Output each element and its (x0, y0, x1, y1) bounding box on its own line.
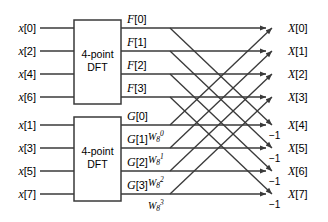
input-label-x3: x[3] (18, 142, 36, 154)
bottom-dft-label: 4-pointDFT (74, 145, 121, 171)
intermediate-label-G1: G[1] (127, 133, 148, 145)
negation-label-row-5: −1 (269, 154, 280, 164)
input-label-x5: x[5] (18, 165, 36, 177)
intermediate-label-F2: F[2] (127, 59, 147, 71)
output-label-X2: X[2] (288, 68, 308, 80)
twiddle-factor-w8-1: W81 (148, 153, 164, 167)
output-label-X5: X[5] (288, 142, 308, 154)
intermediate-label-G2: G[2] (127, 156, 148, 168)
negation-label-row-6: −1 (269, 177, 280, 187)
twiddle-factor-w8-3: W83 (148, 199, 164, 213)
negation-label-row-7: −1 (269, 200, 280, 210)
input-label-x2: x[2] (18, 45, 36, 57)
output-label-X3: X[3] (288, 91, 308, 103)
output-label-X6: X[6] (288, 165, 308, 177)
flow-graph-canvas (0, 0, 328, 222)
input-label-x6: x[6] (18, 91, 36, 103)
negation-label-row-4: −1 (269, 131, 280, 141)
twiddle-factor-w8-0: W80 (148, 130, 164, 144)
intermediate-label-G0: G[0] (127, 110, 148, 122)
input-label-x4: x[4] (18, 68, 36, 80)
output-label-X7: X[7] (288, 188, 308, 200)
twiddle-factor-w8-2: W82 (148, 176, 164, 190)
output-label-X0: X[0] (288, 22, 308, 34)
top-dft-label: 4-pointDFT (74, 48, 121, 74)
intermediate-label-F1: F[1] (127, 36, 147, 48)
output-label-X1: X[1] (288, 45, 308, 57)
input-label-x0: x[0] (18, 22, 36, 34)
intermediate-label-F0: F[0] (127, 13, 147, 25)
input-label-x7: x[7] (18, 188, 36, 200)
fft-butterfly-diagram: x[0]x[2]x[4]x[6]x[1]x[3]x[5]x[7] F[0]F[1… (0, 0, 328, 222)
output-label-X4: X[4] (288, 119, 308, 131)
input-label-x1: x[1] (18, 119, 36, 131)
intermediate-label-G3: G[3] (127, 179, 148, 191)
intermediate-label-F3: F[3] (127, 82, 147, 94)
